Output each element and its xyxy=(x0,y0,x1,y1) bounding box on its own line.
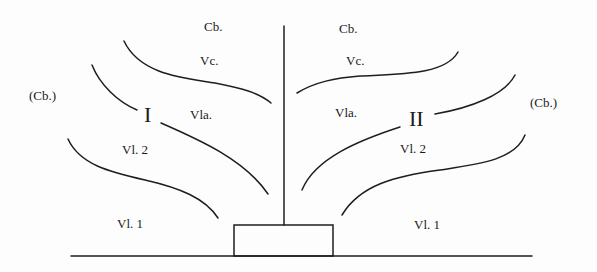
label-vc-right: Vc. xyxy=(346,54,364,67)
right-curve-lower xyxy=(342,135,525,215)
right-curve-middle-bottom xyxy=(302,127,400,190)
left-curve-upper xyxy=(124,41,271,103)
left-curve-middle-top xyxy=(92,65,137,110)
label-cb-left-top: Cb. xyxy=(204,20,222,33)
label-vla-right: Vla. xyxy=(335,106,357,119)
left-curve-middle-bottom xyxy=(161,123,268,194)
label-vl2-left: Vl. 2 xyxy=(122,143,148,156)
label-region-i: I xyxy=(144,104,151,126)
label-vc-left: Vc. xyxy=(200,54,218,67)
right-curve-middle-top xyxy=(435,75,515,114)
label-vl1-right: Vl. 1 xyxy=(414,218,440,231)
label-vl1-left: Vl. 1 xyxy=(117,217,143,230)
label-cb-right-top: Cb. xyxy=(339,22,357,35)
diagram-lines xyxy=(0,0,597,272)
label-vl2-right: Vl. 2 xyxy=(400,142,426,155)
label-cb-right-outer: (Cb.) xyxy=(530,96,557,109)
label-cb-left-outer: (Cb.) xyxy=(29,89,56,102)
label-vla-left: Vla. xyxy=(190,108,212,121)
right-curve-upper xyxy=(297,52,458,93)
base-box xyxy=(234,225,333,256)
diagram-canvas: Cb. Cb. Vc. Vc. (Cb.) (Cb.) I II Vla. Vl… xyxy=(0,0,597,272)
label-region-ii: II xyxy=(409,108,424,130)
